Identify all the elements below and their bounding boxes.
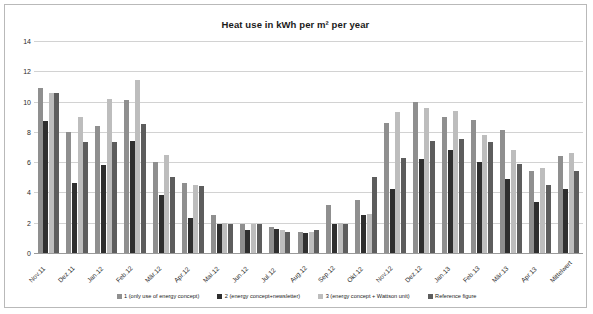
bar[interactable] <box>228 224 233 253</box>
bar-group[interactable] <box>150 41 179 253</box>
bar[interactable] <box>500 130 505 253</box>
bar[interactable] <box>546 185 551 253</box>
bar[interactable] <box>326 205 331 253</box>
bar[interactable] <box>54 93 59 254</box>
bar[interactable] <box>529 171 534 253</box>
bar[interactable] <box>141 124 146 253</box>
legend-item[interactable]: 1 (only use of energy concept) <box>117 293 200 299</box>
bar-group[interactable] <box>525 41 554 253</box>
bar[interactable] <box>251 224 256 253</box>
bar[interactable] <box>95 126 100 253</box>
bar[interactable] <box>124 100 129 253</box>
bar[interactable] <box>471 120 476 253</box>
bar[interactable] <box>72 183 77 253</box>
bar[interactable] <box>459 139 464 253</box>
bar[interactable] <box>401 158 406 253</box>
bar[interactable] <box>448 150 453 253</box>
bar[interactable] <box>193 185 198 253</box>
bar[interactable] <box>558 156 563 253</box>
legend-label: 3 (energy concept + Wattson unit) <box>326 293 410 299</box>
bar[interactable] <box>343 224 348 253</box>
bar[interactable] <box>257 224 262 253</box>
bar[interactable] <box>274 229 279 253</box>
bar-group[interactable] <box>467 41 496 253</box>
bar[interactable] <box>505 179 510 253</box>
bar[interactable] <box>38 88 43 253</box>
bar[interactable] <box>170 177 175 253</box>
bar-group[interactable] <box>207 41 236 253</box>
bar[interactable] <box>430 141 435 253</box>
bar-group[interactable] <box>121 41 150 253</box>
bar[interactable] <box>361 215 366 253</box>
bar[interactable] <box>569 153 574 253</box>
bar[interactable] <box>395 112 400 253</box>
bar-group[interactable] <box>63 41 92 253</box>
bar[interactable] <box>384 123 389 253</box>
bar[interactable] <box>511 150 516 253</box>
bar[interactable] <box>107 99 112 253</box>
bar[interactable] <box>269 227 274 253</box>
bar-group[interactable] <box>294 41 323 253</box>
bar[interactable] <box>482 135 487 253</box>
bar[interactable] <box>367 214 372 253</box>
bar-group[interactable] <box>554 41 583 253</box>
bar[interactable] <box>285 232 290 253</box>
bar-group[interactable] <box>92 41 121 253</box>
bar[interactable] <box>488 142 493 253</box>
bar-group[interactable] <box>410 41 439 253</box>
bar[interactable] <box>453 111 458 253</box>
bar[interactable] <box>66 132 71 253</box>
bar-group[interactable] <box>381 41 410 253</box>
bar[interactable] <box>83 142 88 253</box>
bar[interactable] <box>419 159 424 253</box>
bar[interactable] <box>112 142 117 253</box>
bar[interactable] <box>101 165 106 253</box>
bar[interactable] <box>153 162 158 253</box>
bar[interactable] <box>563 189 568 253</box>
bar[interactable] <box>78 117 83 253</box>
legend-item[interactable]: 2 (energy concept+newsletter) <box>217 293 300 299</box>
bar[interactable] <box>222 223 227 253</box>
bar[interactable] <box>372 177 377 253</box>
bar[interactable] <box>298 232 303 253</box>
bar[interactable] <box>574 171 579 253</box>
bar[interactable] <box>240 224 245 253</box>
bar[interactable] <box>217 224 222 253</box>
bar[interactable] <box>424 108 429 253</box>
bar[interactable] <box>49 93 54 254</box>
bar[interactable] <box>211 215 216 253</box>
bar[interactable] <box>338 223 343 253</box>
bar[interactable] <box>517 164 522 253</box>
bar-group[interactable] <box>352 41 381 253</box>
bar[interactable] <box>130 141 135 253</box>
bar-group[interactable] <box>34 41 63 253</box>
bar[interactable] <box>188 218 193 253</box>
bar[interactable] <box>135 80 140 253</box>
bar-group[interactable] <box>178 41 207 253</box>
bar-group[interactable] <box>439 41 468 253</box>
bar[interactable] <box>164 155 169 253</box>
bar[interactable] <box>303 233 308 253</box>
legend-item[interactable]: 3 (energy concept + Wattson unit) <box>318 293 409 299</box>
bar[interactable] <box>442 117 447 253</box>
bar[interactable] <box>199 186 204 253</box>
bar[interactable] <box>309 232 314 253</box>
bar[interactable] <box>182 183 187 253</box>
bar[interactable] <box>332 224 337 253</box>
bar-group[interactable] <box>236 41 265 253</box>
bar[interactable] <box>477 162 482 253</box>
bar-group[interactable] <box>496 41 525 253</box>
bar[interactable] <box>355 200 360 253</box>
bar[interactable] <box>390 189 395 253</box>
bar[interactable] <box>43 121 48 253</box>
bar-group[interactable] <box>265 41 294 253</box>
bar[interactable] <box>245 230 250 253</box>
bar[interactable] <box>280 230 285 253</box>
bar[interactable] <box>413 102 418 253</box>
legend-item[interactable]: Reference figure <box>428 293 477 299</box>
bar-group[interactable] <box>323 41 352 253</box>
bar[interactable] <box>540 168 545 253</box>
bar[interactable] <box>159 195 164 253</box>
bar[interactable] <box>314 230 319 253</box>
bar[interactable] <box>534 202 539 253</box>
